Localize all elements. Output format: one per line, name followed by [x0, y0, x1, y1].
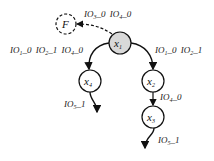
label-x1-x2: IO1_0 IO2_1 — [154, 45, 202, 56]
label-x1-F: IO3_0 IO4_0 — [83, 9, 132, 20]
edge-x4-out — [90, 92, 97, 112]
label-x2-x3: IO4_0 — [159, 92, 182, 103]
label-x3-out: IO5_1 — [157, 135, 180, 146]
node-x3: x3 — [142, 106, 164, 128]
svg-text:F: F — [61, 18, 69, 30]
edge-x1-to-x2 — [131, 43, 153, 69]
node-x1: x1 — [109, 32, 131, 54]
node-x2: x2 — [142, 70, 164, 92]
state-diagram: F x1 x4 x2 x3 IO3_0 IO4_0 IO1_0 IO2_1 IO… — [0, 0, 214, 161]
node-F: F — [56, 14, 76, 34]
node-x4: x4 — [79, 70, 101, 92]
edge-x1-to-F — [77, 24, 112, 34]
edge-x3-out — [145, 128, 154, 148]
edge-x1-to-x4 — [89, 43, 109, 69]
label-x4-out: IO5_1 — [63, 99, 86, 110]
label-x1-x4: IO1_0 IO2_1 IO4_0 — [9, 45, 84, 56]
